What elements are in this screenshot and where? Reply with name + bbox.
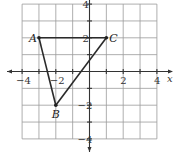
x-axis-left-arrow-icon: [7, 70, 12, 74]
vertex-point-a: [37, 36, 41, 40]
vertex-label-a: A: [28, 32, 37, 45]
x-tick-label: −4: [16, 75, 31, 86]
axes: x: [7, 0, 173, 152]
tick-labels: −4−22442−2−4: [16, 0, 160, 145]
x-tick-label: −2: [50, 75, 65, 86]
x-tick-label: 4: [154, 75, 160, 86]
vertex-point-b: [54, 103, 58, 107]
vertex-label-c: C: [109, 32, 118, 45]
x-axis-name: x: [167, 73, 173, 84]
y-tick-label: 4: [83, 0, 89, 10]
y-tick-label: −2: [78, 100, 93, 111]
y-tick-label: −4: [78, 134, 93, 145]
vertex-point-c: [105, 36, 109, 40]
coordinate-plane: x −4−22442−2−4 ABC: [0, 0, 177, 152]
vertex-label-b: B: [51, 108, 60, 121]
x-tick-label: 2: [120, 75, 126, 86]
y-axis-down-arrow-icon: [88, 147, 92, 152]
